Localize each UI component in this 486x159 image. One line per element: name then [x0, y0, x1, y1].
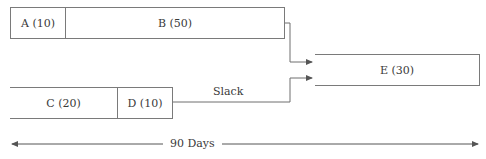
task-b-box: B (50): [65, 7, 285, 39]
timeline-label: 90 Days: [170, 137, 215, 150]
task-d-label: D (10): [128, 97, 163, 110]
slack-label: Slack: [213, 85, 243, 98]
task-e-label: E (30): [380, 64, 414, 77]
task-c-label: C (20): [46, 97, 81, 110]
task-d-box: D (10): [117, 87, 173, 119]
task-b-label: B (50): [158, 17, 192, 30]
connector-b-to-e: [284, 23, 312, 62]
task-e-box: E (30): [315, 54, 480, 86]
task-a-box: A (10): [10, 7, 66, 39]
task-a-label: A (10): [21, 17, 55, 30]
task-c-box: C (20): [10, 87, 118, 119]
